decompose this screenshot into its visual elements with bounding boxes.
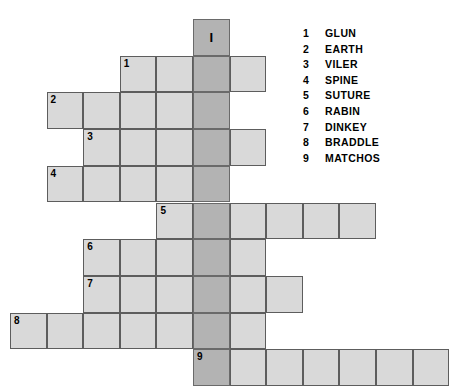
- grid-cell-row-9[interactable]: [339, 349, 376, 386]
- grid-cell-row-9[interactable]: [303, 349, 340, 386]
- grid-cell-shaded[interactable]: [193, 129, 230, 166]
- word-list-item[interactable]: 7DINKEY: [303, 118, 463, 134]
- grid-cell-row-4[interactable]: [156, 166, 193, 203]
- grid-cell-row-1[interactable]: [230, 56, 267, 93]
- grid-cell-row-4[interactable]: [83, 166, 120, 203]
- grid-cell-row-8[interactable]: [47, 313, 84, 350]
- grid-cell-row-6[interactable]: 6: [83, 239, 120, 276]
- cell-number: 7: [87, 278, 93, 289]
- crossword-puzzle: I123456789 1GLUN2EARTH3VILER4SPINE5SUTUR…: [0, 0, 465, 390]
- cell-number: 2: [51, 94, 57, 105]
- grid-cell-row-4[interactable]: [120, 166, 157, 203]
- grid-cell-row-7[interactable]: [156, 276, 193, 313]
- word-number: 9: [303, 151, 325, 167]
- grid-cell-row-2[interactable]: [120, 92, 157, 129]
- cell-number: 6: [87, 241, 93, 252]
- word-list-item[interactable]: 5SUTURE: [303, 86, 463, 102]
- grid-cell-row-8[interactable]: [83, 313, 120, 350]
- crossword-grid: I123456789: [0, 0, 300, 390]
- grid-cell-row-9[interactable]: [230, 349, 267, 386]
- cell-number: 4: [51, 168, 57, 179]
- grid-cell-row-5[interactable]: [230, 203, 267, 240]
- grid-cell-row-6[interactable]: [156, 239, 193, 276]
- grid-cell-row-9[interactable]: [376, 349, 413, 386]
- grid-cell-row-2[interactable]: [156, 92, 193, 129]
- cell-number: 5: [160, 205, 166, 216]
- grid-cell-row-8[interactable]: 8: [10, 313, 47, 350]
- grid-cell-row-7[interactable]: 7: [83, 276, 120, 313]
- grid-cell-row-7[interactable]: [230, 276, 267, 313]
- grid-cell-shaded[interactable]: [193, 239, 230, 276]
- grid-cell-row-3[interactable]: 3: [83, 129, 120, 166]
- word-list-item[interactable]: 8BRADDLE: [303, 133, 463, 149]
- grid-cell-row-6[interactable]: [120, 239, 157, 276]
- grid-cell-row-5[interactable]: [266, 203, 303, 240]
- grid-cell-row-1[interactable]: [156, 56, 193, 93]
- grid-cell-shaded[interactable]: [193, 313, 230, 350]
- grid-cell-shaded[interactable]: [193, 92, 230, 129]
- word-list-item[interactable]: 3VILER: [303, 55, 463, 71]
- word-list-item[interactable]: 6RABIN: [303, 102, 463, 118]
- grid-cell-row-5[interactable]: [303, 203, 340, 240]
- grid-cell-row-5[interactable]: [339, 203, 376, 240]
- grid-cell-shaded[interactable]: 9: [193, 349, 230, 386]
- grid-cell-row-7[interactable]: [266, 276, 303, 313]
- grid-cell-row-3[interactable]: [156, 129, 193, 166]
- word-text: MATCHOS: [325, 151, 380, 167]
- word-list-item[interactable]: 9MATCHOS: [303, 149, 463, 165]
- cell-number: 1: [124, 58, 130, 69]
- grid-cell-row-3[interactable]: [120, 129, 157, 166]
- word-list-item[interactable]: 4SPINE: [303, 71, 463, 87]
- grid-cell-row-6[interactable]: [230, 239, 267, 276]
- grid-cell-row-4[interactable]: 4: [47, 166, 84, 203]
- grid-cell-row-5[interactable]: 5: [156, 203, 193, 240]
- word-list-item[interactable]: 1GLUN: [303, 24, 463, 40]
- grid-cell-row-8[interactable]: [156, 313, 193, 350]
- cell-number: 3: [87, 131, 93, 142]
- grid-cell-shaded[interactable]: [193, 166, 230, 203]
- grid-cell-shaded[interactable]: [193, 203, 230, 240]
- grid-cell-shaded[interactable]: [193, 56, 230, 93]
- grid-cell-row-7[interactable]: [120, 276, 157, 313]
- key-letter: I: [194, 20, 229, 55]
- grid-cell-shaded[interactable]: [193, 276, 230, 313]
- grid-cell-row-2[interactable]: 2: [47, 92, 84, 129]
- grid-cell-row-9[interactable]: [266, 349, 303, 386]
- grid-cell-row-1[interactable]: 1: [120, 56, 157, 93]
- grid-cell-row-8[interactable]: [120, 313, 157, 350]
- cell-number: 9: [197, 351, 203, 362]
- grid-cell-row-3[interactable]: [230, 129, 267, 166]
- grid-cell-shaded[interactable]: I: [193, 19, 230, 56]
- cell-number: 8: [14, 315, 20, 326]
- grid-cell-row-8[interactable]: [230, 313, 267, 350]
- word-list: 1GLUN2EARTH3VILER4SPINE5SUTURE6RABIN7DIN…: [303, 24, 463, 164]
- grid-cell-row-2[interactable]: [83, 92, 120, 129]
- grid-cell-row-9[interactable]: [413, 349, 450, 386]
- word-list-item[interactable]: 2EARTH: [303, 40, 463, 56]
